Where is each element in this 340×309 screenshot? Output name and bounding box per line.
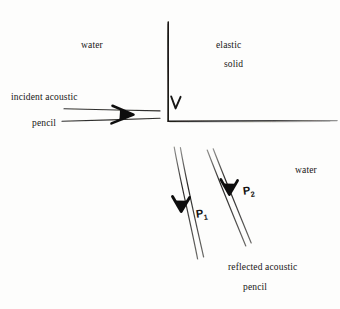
- label-solid: solid: [224, 60, 243, 70]
- label-water-lower-region: water: [295, 166, 317, 176]
- label-reflected-acoustic: reflected acoustic: [228, 263, 297, 273]
- ray-label-p2: P2: [242, 183, 256, 200]
- label-water-upper-region: water: [81, 41, 103, 51]
- acoustic-reflection-diagram: water elastic solid incident acoustic pe…: [0, 0, 340, 309]
- interface-vertical-line: [168, 22, 169, 121]
- label-elastic: elastic: [216, 41, 241, 51]
- label-reflected-pencil: pencil: [243, 283, 267, 293]
- ray-label-p1: P1: [195, 206, 209, 223]
- label-incident-pencil: pencil: [32, 119, 56, 129]
- label-incident-acoustic: incident acoustic: [11, 93, 78, 103]
